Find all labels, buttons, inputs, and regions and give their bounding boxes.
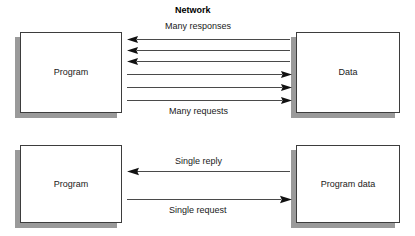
node-data-top-label: Data	[338, 68, 357, 77]
node-program-bottom[interactable]: Program	[20, 145, 122, 223]
arrow-response-2	[127, 47, 290, 54]
arrow-response-1	[127, 36, 290, 43]
node-program-top-label: Program	[54, 68, 89, 77]
arrow-request-3	[127, 97, 292, 104]
label-single-reply: Single reply	[175, 157, 222, 166]
node-data-top[interactable]: Data	[296, 32, 400, 113]
arrow-single-reply	[127, 168, 290, 175]
label-single-request: Single request	[169, 206, 227, 215]
arrow-single-request	[127, 196, 292, 203]
arrow-response-3	[127, 58, 290, 65]
diagram-title: Network	[175, 6, 211, 15]
node-program-top[interactable]: Program	[20, 32, 122, 113]
diagram-canvas: Network Many responses Program Data	[0, 0, 415, 236]
arrow-request-1	[127, 71, 292, 78]
label-many-responses: Many responses	[165, 22, 231, 31]
node-program-bottom-label: Program	[54, 180, 89, 189]
node-program-data-bottom-label: Program data	[321, 180, 376, 189]
label-many-requests: Many requests	[169, 107, 228, 116]
arrow-request-2	[127, 84, 292, 91]
node-program-data-bottom[interactable]: Program data	[296, 145, 400, 223]
